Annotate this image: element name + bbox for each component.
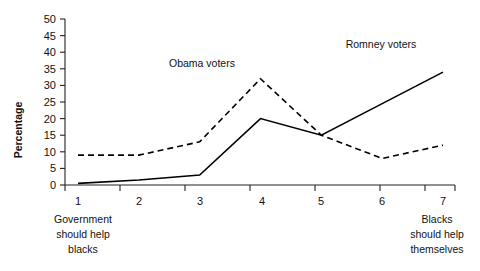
right-caption-line-1: Blacks [422, 213, 453, 225]
series-line-romney-voters [78, 72, 443, 183]
y-tick-label: 30 [44, 79, 56, 91]
right-caption-line-2: should help [410, 228, 464, 240]
chart-figure: 0 5 10 15 20 25 30 35 40 45 50 Percentag… [0, 0, 480, 271]
y-tick-label: 25 [44, 96, 56, 108]
y-axis-title: Percentage [12, 102, 24, 159]
annotation-romney-voters: Romney voters [346, 38, 417, 50]
x-tick-label-5: 5 [318, 195, 324, 207]
left-caption-line-1: Government [54, 213, 112, 225]
right-caption-line-3: themselves [410, 243, 463, 255]
x-axis-left-caption: Government should help blacks [54, 213, 112, 255]
y-tick-label: 40 [44, 46, 56, 58]
x-axis-right-caption: Blacks should help themselves [410, 213, 464, 255]
x-tick-label-1: 1 [75, 195, 81, 207]
left-caption-line-2: should help [56, 228, 110, 240]
x-tick-label-6: 6 [379, 195, 385, 207]
y-tick-label: 35 [44, 63, 56, 75]
x-tick-label-3: 3 [197, 195, 203, 207]
y-axis-ticks [60, 19, 65, 185]
y-tick-label: 0 [50, 179, 56, 191]
y-tick-label: 20 [44, 113, 56, 125]
left-caption-line-3: blacks [68, 243, 98, 255]
x-axis-ticks [65, 185, 455, 191]
x-tick-label-7: 7 [440, 195, 446, 207]
annotation-obama-voters: Obama voters [169, 57, 235, 69]
y-tick-label: 45 [44, 30, 56, 42]
y-tick-label: 15 [44, 129, 56, 141]
y-tick-label: 50 [44, 13, 56, 25]
x-tick-label-4: 4 [259, 195, 265, 207]
y-tick-label: 10 [44, 146, 56, 158]
line-chart-svg: 0 5 10 15 20 25 30 35 40 45 50 Percentag… [0, 0, 480, 271]
x-tick-label-2: 2 [136, 195, 142, 207]
y-tick-label: 5 [50, 162, 56, 174]
